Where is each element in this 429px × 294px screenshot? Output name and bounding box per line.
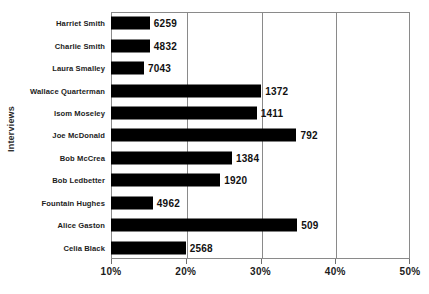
bar-row: Harriet Smith6259 [0, 12, 429, 34]
x-tick-mark [335, 259, 336, 264]
bar [111, 107, 257, 120]
bar-row: Joe McDonald792 [0, 124, 429, 146]
bar-value-label: 1411 [261, 108, 284, 119]
bar-value-label: 792 [300, 130, 317, 141]
bar [111, 17, 150, 30]
bar-row: Charlie Smith4832 [0, 34, 429, 56]
category-label: Harriet Smith [0, 19, 105, 28]
x-tick-label: 20% [175, 266, 196, 277]
bar [111, 151, 232, 164]
bar-value-label: 4962 [157, 197, 180, 208]
bar [111, 129, 296, 142]
bar [111, 241, 186, 254]
bar [111, 196, 153, 209]
x-tick-mark [261, 259, 262, 264]
category-label: Alice Gaston [0, 221, 105, 230]
bar-row: Isom Moseley1411 [0, 102, 429, 124]
x-axis: 10%20%30%40%50% [111, 259, 410, 294]
bar-row: Alice Gaston509 [0, 214, 429, 236]
category-label: Wallace Quarterman [0, 86, 105, 95]
x-tick-label: 50% [400, 266, 421, 277]
bar-value-label: 6259 [154, 18, 177, 29]
bar-value-label: 1384 [236, 152, 259, 163]
category-label: Joe McDonald [0, 131, 105, 140]
category-label: Celia Black [0, 243, 105, 252]
bar-value-label: 509 [301, 220, 318, 231]
bar-chart: Interviews Harriet Smith6259Charlie Smit… [0, 0, 429, 294]
bar [111, 39, 150, 52]
category-label: Fountain Hughes [0, 198, 105, 207]
x-tick-mark [186, 259, 187, 264]
category-label: Laura Smalley [0, 64, 105, 73]
bar [111, 219, 297, 232]
bar-row: Laura Smalley7043 [0, 57, 429, 79]
x-tick-label: 30% [250, 266, 271, 277]
bar-value-label: 2568 [190, 242, 213, 253]
bar-value-label: 4832 [154, 40, 177, 51]
x-tick-mark [409, 259, 410, 264]
bar-value-label: 1372 [265, 85, 288, 96]
bar-row: Bob Ledbetter1920 [0, 169, 429, 191]
bar-row: Wallace Quarterman1372 [0, 79, 429, 101]
bar-rows: Harriet Smith6259Charlie Smith4832Laura … [0, 12, 429, 259]
category-label: Isom Moseley [0, 109, 105, 118]
x-tick-label: 40% [325, 266, 346, 277]
category-label: Bob Ledbetter [0, 176, 105, 185]
x-tick-label: 10% [101, 266, 122, 277]
bar-row: Fountain Hughes4962 [0, 192, 429, 214]
category-label: Bob McCrea [0, 153, 105, 162]
x-tick-mark [111, 259, 112, 264]
bar [111, 174, 220, 187]
category-label: Charlie Smith [0, 41, 105, 50]
bar-row: Celia Black2568 [0, 237, 429, 259]
bar-row: Bob McCrea1384 [0, 147, 429, 169]
bar-value-label: 1920 [224, 175, 247, 186]
bar-value-label: 7043 [148, 63, 171, 74]
bar [111, 62, 144, 75]
bar [111, 84, 261, 97]
